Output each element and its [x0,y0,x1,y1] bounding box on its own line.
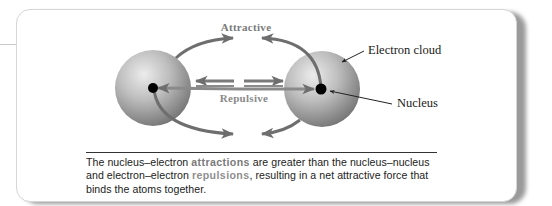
electron-cloud-label: Electron cloud [368,43,442,57]
repulsive-label: Repulsive [220,92,269,104]
attractive-arrow-horizontal-left [158,88,240,89]
caption-text-1: The nucleus–electron [86,156,191,168]
caption-highlight-repulsions: repulsions [192,169,250,181]
nucleus-label: Nucleus [397,96,438,110]
figure-caption: The nucleus–electron attractions are gre… [86,156,446,196]
attractive-arrow-bottom-right [262,120,300,134]
attractive-label: Attractive [221,21,272,33]
electron-cloud-pointer [342,51,364,62]
attractive-arrow-top-left [176,38,233,58]
left-nucleus [148,83,158,93]
caption-highlight-attractions: attractions [191,156,250,168]
caption-divider [86,152,437,153]
right-nucleus [316,84,327,95]
